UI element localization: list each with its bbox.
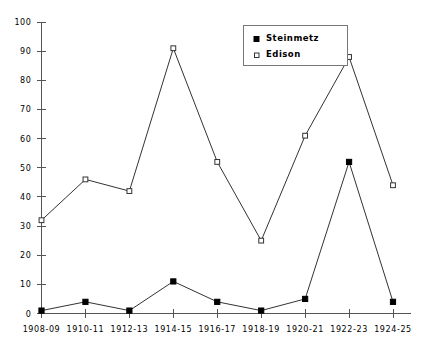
data-point xyxy=(83,177,88,182)
data-point xyxy=(259,308,264,313)
series-edison xyxy=(39,46,395,243)
y-tick-label: 30 xyxy=(20,222,31,231)
legend-label-edison: Edison xyxy=(266,49,301,59)
data-point xyxy=(259,238,264,243)
legend-marker-edison xyxy=(255,53,260,58)
data-point xyxy=(83,299,88,304)
data-point xyxy=(127,189,132,194)
data-point xyxy=(303,133,308,138)
series-line-steinmetz xyxy=(42,162,394,311)
x-tick-label: 1912-13 xyxy=(111,325,149,334)
x-tick-label: 1908-09 xyxy=(23,325,61,334)
series-layer xyxy=(39,46,396,313)
x-tick-label: 1922-23 xyxy=(330,325,368,334)
legend: Steinmetz Edison xyxy=(244,26,348,66)
y-tick-label: 20 xyxy=(20,251,31,260)
data-point xyxy=(39,308,44,313)
series-line-edison xyxy=(42,48,394,240)
data-point xyxy=(391,183,396,188)
data-point xyxy=(171,279,176,284)
chart-canvas: 0102030405060708090100 1908-091910-11191… xyxy=(0,0,425,343)
y-tick-label: 50 xyxy=(20,164,31,173)
y-tick-label: 90 xyxy=(20,47,31,56)
y-tick-label: 60 xyxy=(20,135,31,144)
y-tick-label: 100 xyxy=(14,18,31,27)
y-tick-label: 70 xyxy=(20,105,31,114)
x-tick-label: 1924-25 xyxy=(374,325,412,334)
y-tick-label: 0 xyxy=(26,310,32,319)
data-point xyxy=(127,308,132,313)
y-tick-label: 80 xyxy=(20,76,31,85)
data-point xyxy=(303,296,308,301)
x-axis-ticks: 1908-091910-111912-131914-151916-171918-… xyxy=(23,309,412,334)
x-tick-label: 1918-19 xyxy=(242,325,280,334)
series-steinmetz xyxy=(39,159,396,313)
y-tick-label: 40 xyxy=(20,193,31,202)
data-point xyxy=(39,218,44,223)
legend-frame xyxy=(244,26,348,66)
data-point xyxy=(390,299,395,304)
y-tick-label: 10 xyxy=(20,280,31,289)
data-point xyxy=(346,159,351,164)
x-tick-label: 1914-15 xyxy=(154,325,192,334)
line-chart: 0102030405060708090100 1908-091910-11191… xyxy=(0,0,425,343)
x-tick-label: 1920-21 xyxy=(286,325,324,334)
data-point xyxy=(215,160,220,165)
legend-label-steinmetz: Steinmetz xyxy=(266,33,319,43)
x-tick-label: 1910-11 xyxy=(67,325,105,334)
x-tick-label: 1916-17 xyxy=(198,325,236,334)
legend-marker-steinmetz xyxy=(254,37,259,42)
data-point xyxy=(215,299,220,304)
data-point xyxy=(171,46,176,51)
